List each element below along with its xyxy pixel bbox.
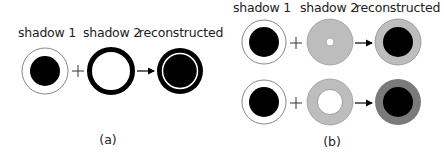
panel-a-shadow1-icon	[22, 48, 68, 94]
panel-b-row2	[242, 79, 421, 125]
plus-icon	[290, 97, 302, 109]
panel-b-row1	[242, 19, 421, 65]
panel-a-caption: (a)	[99, 132, 116, 147]
panel-b-row1-shadow1-icon	[242, 20, 286, 64]
panel-b-row2-shadow1-icon	[242, 80, 286, 124]
panel-b-row1-reconstructed-icon	[375, 19, 421, 65]
plus-icon	[290, 37, 302, 49]
panel-a	[22, 48, 203, 94]
panel-b-row2-reconstructed-icon	[375, 79, 421, 125]
diagram-canvas	[0, 0, 444, 155]
panel-a-shadow2-icon	[90, 50, 133, 93]
panel-b-caption: (b)	[323, 134, 341, 149]
panel-a-reconstructed-icon	[157, 48, 203, 94]
panel-b-row2-shadow2-icon	[307, 79, 353, 125]
plus-icon	[72, 65, 84, 77]
panel-b-row1-shadow2-icon	[307, 19, 353, 65]
